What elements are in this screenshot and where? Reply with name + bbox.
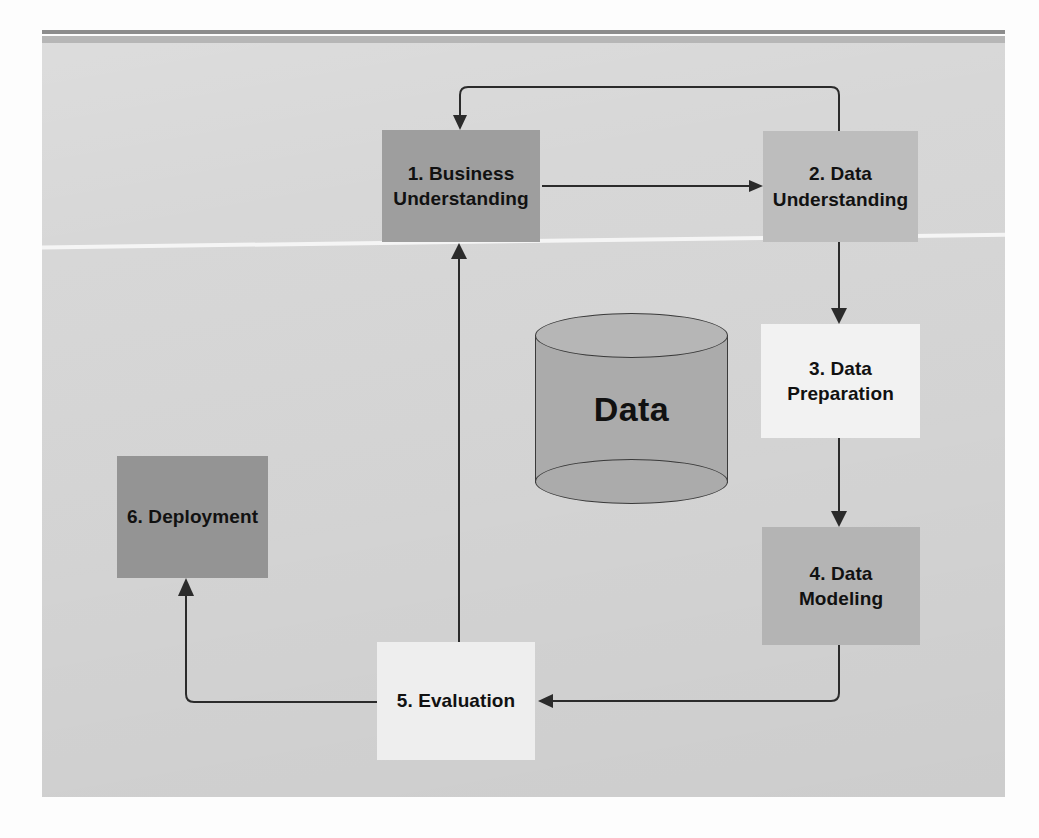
page-top-band: [42, 36, 1005, 43]
edge-data-preparation-to-data-modeling: [831, 438, 847, 527]
node-data-preparation[interactable]: 3. Data Preparation: [761, 324, 920, 438]
node-business-understanding-line1: 1. Business: [393, 161, 528, 186]
node-data-understanding-line1: 2. Data: [773, 161, 908, 186]
node-business-understanding[interactable]: 1. Business Understanding: [382, 130, 540, 242]
node-business-understanding-line2: Understanding: [393, 186, 528, 211]
node-evaluation[interactable]: 5. Evaluation: [377, 642, 535, 760]
data-cylinder[interactable]: Data: [535, 313, 728, 505]
node-data-modeling[interactable]: 4. Data Modeling: [762, 527, 920, 645]
node-data-preparation-line1: 3. Data: [787, 356, 894, 381]
node-data-preparation-line2: Preparation: [787, 381, 894, 406]
node-data-understanding-line2: Understanding: [773, 187, 908, 212]
edge-evaluation-to-business-understanding: [451, 243, 467, 642]
page-top-rule: [42, 30, 1005, 34]
diagram-page: 1. Business Understanding 2. Data Unders…: [0, 0, 1039, 838]
data-cylinder-label: Data: [535, 313, 728, 505]
diagram-panel: 1. Business Understanding 2. Data Unders…: [42, 43, 1005, 797]
node-evaluation-line1: 5. Evaluation: [397, 688, 516, 713]
node-data-modeling-line1: 4. Data Modeling: [770, 561, 912, 611]
node-deployment-line1: 6. Deployment: [127, 504, 258, 529]
node-data-understanding[interactable]: 2. Data Understanding: [763, 131, 918, 242]
edge-data-understanding-to-business-feedback: [453, 87, 839, 131]
edge-data-understanding-to-data-preparation: [831, 242, 847, 324]
edge-evaluation-to-deployment: [178, 578, 377, 702]
edge-business-to-data-understanding: [542, 180, 763, 192]
edge-data-modeling-to-evaluation: [538, 645, 839, 708]
node-deployment[interactable]: 6. Deployment: [117, 456, 268, 578]
